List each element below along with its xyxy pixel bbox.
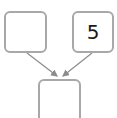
- arrow-right-to-bottom: [63, 53, 92, 76]
- node-left: [4, 11, 47, 53]
- node-right-value: 5: [87, 20, 100, 44]
- node-right: 5: [72, 11, 114, 53]
- node-bottom: [38, 79, 81, 118]
- arrow-left-to-bottom: [27, 53, 57, 76]
